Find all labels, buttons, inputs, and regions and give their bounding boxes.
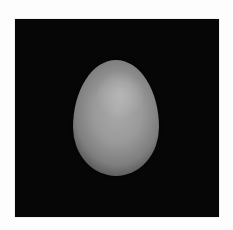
- egg: [73, 60, 159, 176]
- image-frame: [0, 0, 233, 230]
- photo-black-background: [15, 19, 219, 217]
